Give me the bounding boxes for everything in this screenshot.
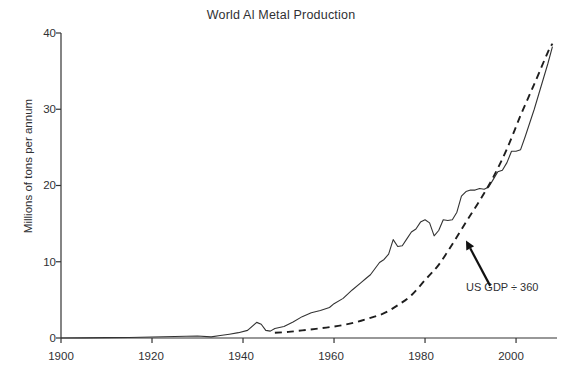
y-axis-ticks: [56, 33, 61, 338]
chart-plot-area: [0, 0, 562, 380]
annotation-arrow-icon: [466, 240, 490, 285]
chart-figure: World Al Metal Production Millions of to…: [0, 0, 562, 380]
series-line-us-gdp: [275, 44, 553, 333]
figure-caption: [0, 368, 562, 380]
x-axis-ticks: [61, 338, 516, 343]
series-line-world-al-production: [61, 47, 552, 338]
